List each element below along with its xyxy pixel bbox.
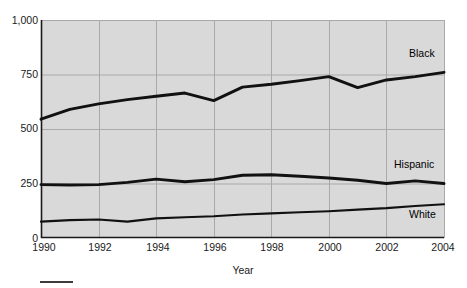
x-ticklabel-2004: 2004 xyxy=(431,242,454,253)
x-axis-title: Year xyxy=(232,264,253,276)
x-ticklabel-1994: 1994 xyxy=(146,242,169,253)
series-label-black: Black xyxy=(409,47,435,59)
y-ticklabel-1000: 1,000 xyxy=(2,15,38,25)
legend-strip xyxy=(0,276,467,288)
y-ticklabel-750: 750 xyxy=(2,69,38,79)
series-label-hispanic: Hispanic xyxy=(394,158,434,170)
x-ticklabel-2002: 2002 xyxy=(375,242,398,253)
clipped-chart-title xyxy=(0,0,467,7)
x-ticklabel-1992: 1992 xyxy=(88,242,111,253)
x-ticklabel-2000: 2000 xyxy=(318,242,341,253)
x-ticklabel-1996: 1996 xyxy=(203,242,226,253)
legend-swatch-black xyxy=(40,281,73,283)
x-ticklabel-1990: 1990 xyxy=(32,242,55,253)
series-label-white: White xyxy=(409,208,436,220)
y-ticklabel-250: 250 xyxy=(2,178,38,188)
chart-figure: 1,000 750 500 250 0 1990 1992 1994 1996 … xyxy=(0,0,467,288)
y-ticklabel-500: 500 xyxy=(2,123,38,133)
x-ticklabel-1998: 1998 xyxy=(260,242,283,253)
